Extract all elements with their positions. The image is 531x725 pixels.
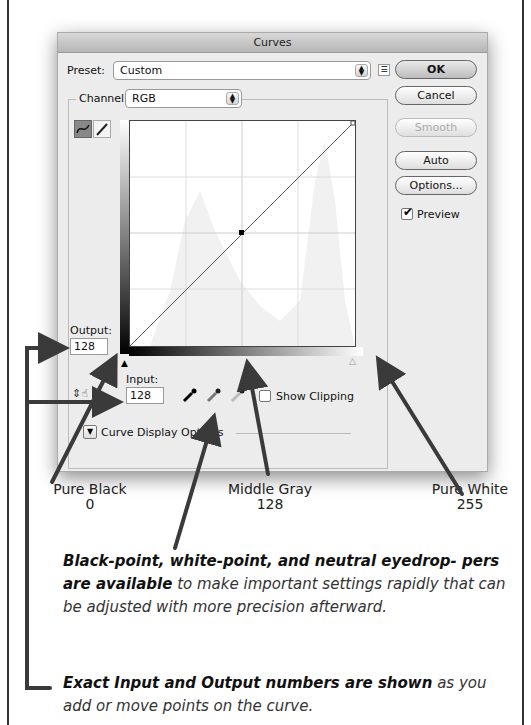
black-point-eyedropper-icon[interactable] — [182, 387, 198, 406]
callout-value: 128 — [210, 497, 330, 512]
black-point-slider-icon[interactable]: ▲ — [121, 358, 128, 368]
input-label: Input: — [126, 373, 158, 386]
checkmark-icon: ✔ — [403, 205, 413, 219]
options-button[interactable]: Options... — [395, 176, 477, 195]
disclosure-triangle-icon[interactable]: ▼ — [83, 425, 97, 439]
preset-value: Custom — [120, 64, 162, 77]
callout-pure-black: Pure Black 0 — [35, 482, 145, 512]
curve-graph[interactable] — [129, 120, 356, 347]
callout-title: Middle Gray — [210, 482, 330, 497]
callout-title: Pure White — [415, 482, 525, 497]
preset-options-menu-icon[interactable]: ☰ — [378, 64, 390, 76]
note-eyedroppers: Black-point, white-point, and neutral ey… — [63, 550, 513, 619]
output-field[interactable]: 128 — [70, 338, 108, 355]
input-field[interactable]: 128 — [126, 387, 164, 404]
output-label: Output: — [70, 324, 112, 337]
select-arrows-icon: ▲▼ — [226, 92, 239, 105]
curves-dialog: Curves Preset: Custom ▲▼ ☰ OK Cancel Smo… — [57, 32, 488, 472]
callout-value: 0 — [35, 497, 145, 512]
input-gradient-bar — [129, 347, 363, 356]
gray-point-eyedropper-icon[interactable] — [206, 387, 222, 407]
select-arrows-icon: ▲▼ — [355, 64, 368, 77]
output-gradient-bar — [120, 120, 129, 354]
channel-value: RGB — [132, 92, 156, 105]
preset-label: Preset: — [67, 64, 105, 77]
callout-middle-gray: Middle Gray 128 — [210, 482, 330, 512]
pencil-tool-icon[interactable] — [93, 120, 111, 138]
white-point-slider-icon[interactable]: △ — [349, 356, 356, 366]
preview-checkbox[interactable]: ✔ — [401, 208, 413, 220]
on-image-adjust-icon[interactable]: ⇕☝ — [72, 387, 88, 400]
callout-pure-white: Pure White 255 — [415, 482, 525, 512]
divider — [236, 433, 351, 434]
smooth-button[interactable]: Smooth — [395, 118, 477, 137]
note-numbers: Exact Input and Output numbers are shown… — [63, 672, 513, 718]
show-clipping-checkbox[interactable] — [259, 390, 271, 402]
curve-display-options-label[interactable]: Curve Display Options — [101, 426, 223, 439]
note-bold: Exact Input and Output numbers are shown — [63, 674, 432, 692]
channel-label: Channel: — [76, 92, 131, 105]
callout-title: Pure Black — [35, 482, 145, 497]
curve-point-tool-icon[interactable] — [74, 120, 92, 138]
white-point-eyedropper-icon[interactable] — [230, 387, 246, 407]
show-clipping-label: Show Clipping — [276, 390, 354, 403]
preset-select[interactable]: Custom ▲▼ — [113, 61, 371, 80]
preview-label: Preview — [417, 208, 460, 221]
auto-button[interactable]: Auto — [395, 151, 477, 170]
ok-button[interactable]: OK — [395, 60, 477, 79]
callout-value: 255 — [415, 497, 525, 512]
cancel-button[interactable]: Cancel — [395, 86, 477, 105]
dialog-title: Curves — [58, 33, 487, 53]
channel-select[interactable]: RGB ▲▼ — [125, 89, 242, 108]
